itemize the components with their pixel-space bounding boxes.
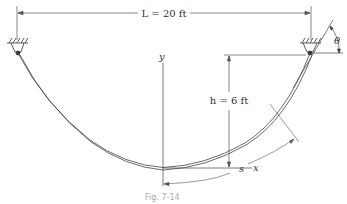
- span-label: L = 20 ft: [142, 8, 187, 19]
- arc-length-label: s: [239, 163, 244, 174]
- angle-label: θ: [334, 35, 340, 46]
- tangent-line: [293, 20, 343, 88]
- arc-length-dimension: [164, 104, 299, 186]
- x-axis-label: x: [253, 162, 259, 173]
- sag-label: h = 6 ft: [210, 95, 248, 106]
- left-support-icon: [7, 38, 28, 55]
- figure-caption: Fig. 7-14: [145, 193, 180, 202]
- cable: [18, 53, 312, 170]
- y-axis-label: y: [158, 51, 165, 62]
- right-support-icon: [300, 38, 321, 55]
- cable-diagram: L = 20 ft θ y x: [0, 0, 347, 204]
